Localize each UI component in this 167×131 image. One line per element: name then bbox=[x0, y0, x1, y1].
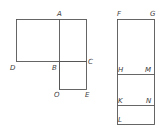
label-d: D bbox=[10, 64, 16, 72]
label-e: E bbox=[85, 91, 90, 99]
label-m: M bbox=[145, 66, 151, 74]
left-figure: A D B C O E bbox=[10, 10, 93, 99]
rectangle-adcb bbox=[17, 20, 87, 62]
label-o: O bbox=[54, 91, 60, 99]
label-k: K bbox=[118, 97, 124, 105]
label-f: F bbox=[117, 10, 122, 18]
label-n: N bbox=[146, 97, 152, 105]
label-l: L bbox=[118, 116, 122, 124]
rectangle-bceo bbox=[60, 62, 87, 90]
geometry-diagram: A D B C O E F G H M K N L bbox=[0, 0, 167, 131]
label-a: A bbox=[56, 10, 62, 18]
right-figure: F G H M K N L bbox=[117, 10, 156, 125]
label-b: B bbox=[52, 64, 57, 72]
label-g: G bbox=[150, 10, 156, 18]
label-h: H bbox=[118, 66, 124, 74]
label-c: C bbox=[88, 58, 93, 66]
